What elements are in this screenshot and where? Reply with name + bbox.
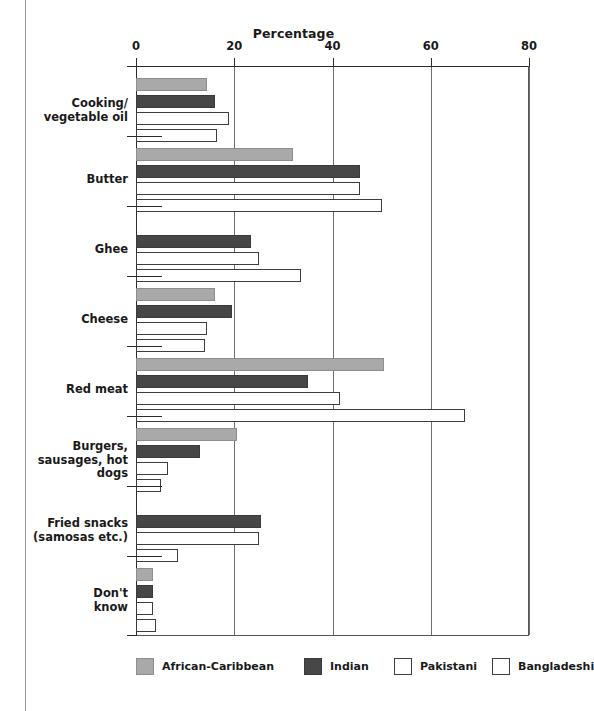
legend-swatch-ind <box>304 658 322 675</box>
bar <box>136 199 382 212</box>
category-tick-inner <box>136 486 162 487</box>
chart-legend: African-CaribbeanIndianPakistaniBanglade… <box>136 651 536 681</box>
category-label-line: Burgers, <box>8 440 128 454</box>
x-tick-label-80: 80 <box>521 39 537 53</box>
category-label: Ghee <box>8 243 128 257</box>
x-tick-20 <box>234 58 235 67</box>
legend-swatch-ac <box>136 658 154 675</box>
category-label-line: Cooking/ <box>8 97 128 111</box>
legend-label-ac: African-Caribbean <box>162 660 274 673</box>
plot-area: 020406080 <box>136 66 529 635</box>
legend-item-ind[interactable]: Indian <box>304 658 369 675</box>
category-tick-inner <box>136 66 162 67</box>
x-tick-80 <box>529 58 530 67</box>
legend-swatch-ban <box>492 658 510 675</box>
bar <box>136 428 237 441</box>
x-tick-label-0: 0 <box>132 39 140 53</box>
bar <box>136 585 153 598</box>
category-label-line: Fried snacks <box>8 517 128 531</box>
category-label-line: Red meat <box>8 383 128 397</box>
x-tick-label-20: 20 <box>226 39 242 53</box>
category-label: Burgers,sausages, hot dogs <box>8 440 128 481</box>
category-label-line: Cheese <box>8 313 128 327</box>
category-tick-inner <box>136 556 162 557</box>
category-label: Cooking/vegetable oil <box>8 97 128 124</box>
bar <box>136 568 153 581</box>
chart-title-text: Percentage <box>253 26 334 41</box>
legend-swatch-pak <box>394 658 412 675</box>
category-tick-inner <box>136 416 162 417</box>
bar <box>136 392 340 405</box>
gridline-60 <box>431 66 432 635</box>
bar <box>136 515 261 528</box>
gridline-40 <box>333 66 334 635</box>
legend-item-ban[interactable]: Bangladeshi <box>492 658 594 675</box>
category-label-line: Ghee <box>8 243 128 257</box>
category-label: Fried snacks(samosas etc.) <box>8 517 128 544</box>
category-label-line: Butter <box>8 173 128 187</box>
x-tick-60 <box>431 58 432 67</box>
x-tick-40 <box>333 58 334 67</box>
bar <box>136 375 308 388</box>
axis-bottom-line <box>136 635 529 636</box>
category-axis-labels: Cooking/vegetable oilButterGheeCheeseRed… <box>0 66 128 635</box>
x-tick-label-40: 40 <box>324 39 340 53</box>
category-label-line: (samosas etc.) <box>8 530 128 544</box>
legend-item-ac[interactable]: African-Caribbean <box>136 658 274 675</box>
bar <box>136 322 207 335</box>
category-label-line: vegetable oil <box>8 110 128 124</box>
bar <box>136 78 207 91</box>
legend-label-ban: Bangladeshi <box>518 660 594 673</box>
category-label: Don'tknow <box>8 587 128 614</box>
category-tick-inner <box>136 276 162 277</box>
category-tick <box>127 635 137 636</box>
bar <box>136 112 229 125</box>
bar <box>136 252 259 265</box>
bar <box>136 445 200 458</box>
bar <box>136 409 465 422</box>
bar <box>136 462 168 475</box>
x-tick-label-60: 60 <box>423 39 439 53</box>
legend-label-pak: Pakistani <box>420 660 477 673</box>
chart-title: Percentage <box>0 26 578 41</box>
bar <box>136 532 259 545</box>
category-tick-inner <box>136 136 162 137</box>
category-label-line: know <box>8 600 128 614</box>
bar <box>136 305 232 318</box>
category-label-line: Don't <box>8 587 128 601</box>
bar <box>136 619 156 632</box>
category-label: Butter <box>8 173 128 187</box>
bar <box>136 288 215 301</box>
bar <box>136 358 384 371</box>
bar <box>136 602 153 615</box>
bar <box>136 95 215 108</box>
category-label: Cheese <box>8 313 128 327</box>
bar <box>136 148 293 161</box>
category-label: Red meat <box>8 383 128 397</box>
legend-item-pak[interactable]: Pakistani <box>394 658 477 675</box>
category-tick-inner <box>136 346 162 347</box>
legend-label-ind: Indian <box>330 660 369 673</box>
bar <box>136 235 251 248</box>
gridline-80 <box>529 66 530 635</box>
bar <box>136 165 360 178</box>
category-tick-inner <box>136 206 162 207</box>
bar <box>136 182 360 195</box>
category-label-line: sausages, hot dogs <box>8 453 128 480</box>
